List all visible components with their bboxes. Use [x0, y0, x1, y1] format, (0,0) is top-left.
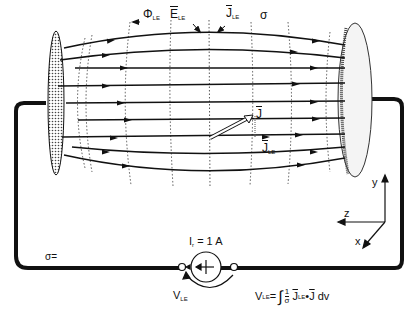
j-le-label: JLE	[262, 142, 275, 155]
sigma-bottom-label: σ=	[45, 252, 57, 262]
j-vector-label: J	[256, 108, 262, 120]
sigma-top-label: σ	[260, 9, 267, 21]
e-le-label: ELE	[170, 8, 185, 21]
axis-z-label: z	[344, 208, 350, 219]
axis-y-label: y	[372, 177, 378, 188]
phi-le-label: ΦLE	[143, 8, 160, 21]
vle-label: VLE	[173, 290, 188, 302]
right-electrode	[338, 23, 372, 177]
left-electrode	[48, 31, 64, 175]
current-flow-lines	[58, 32, 345, 171]
label-pointers	[133, 22, 225, 32]
lead-voltage-formula: VLE= ∫ 1 σ JLE•J dv	[255, 288, 329, 305]
diagram-canvas	[0, 0, 417, 316]
isopotential-lines	[78, 20, 331, 188]
current-value-label: Ir = 1 A	[189, 236, 223, 248]
axis-x-label: x	[355, 236, 361, 247]
j-le-top-label: JLE	[226, 7, 239, 20]
